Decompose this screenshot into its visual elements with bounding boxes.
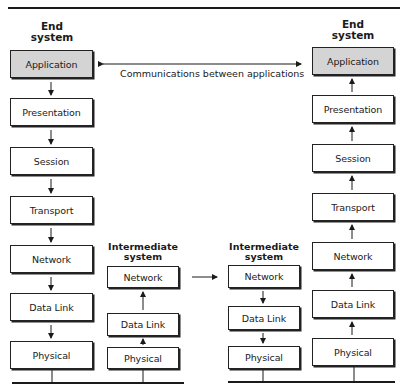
diagram-connectors xyxy=(0,0,409,389)
